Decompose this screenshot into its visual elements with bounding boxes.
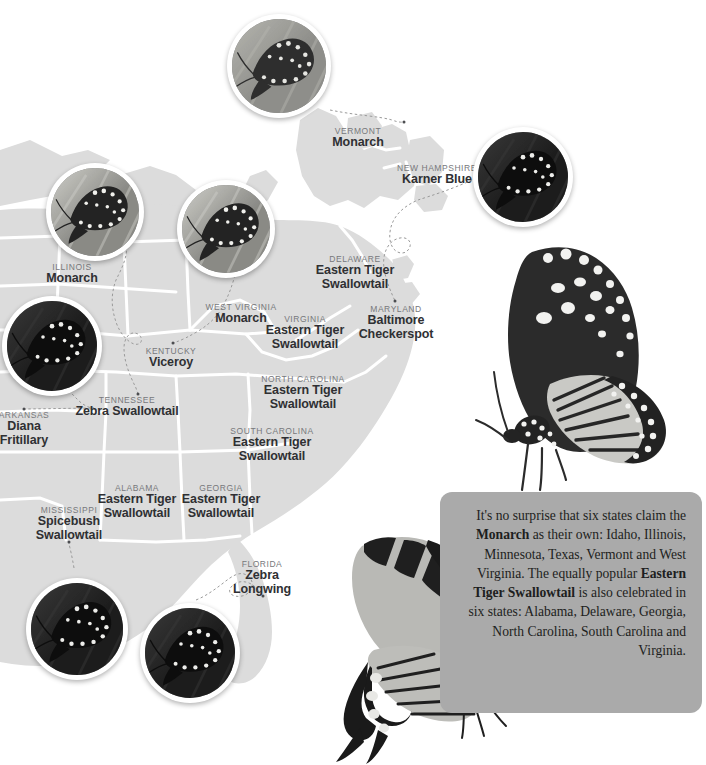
zebra-longwing-butterfly-photo <box>140 603 240 703</box>
butterfly-name-vermont: Monarch <box>332 136 383 150</box>
state-label-mississippi: MISSISSIPPISpicebushSwallowtail <box>36 506 102 542</box>
karner-blue-butterfly-photo <box>227 14 331 118</box>
butterfly-name-north-carolina: Eastern TigerSwallowtail <box>261 384 345 411</box>
spicebush-swallowtail-butterfly-photo <box>26 578 128 680</box>
butterfly-name-new-hampshire: Karner Blue <box>397 173 477 187</box>
butterfly-name-florida: ZebraLongwing <box>233 569 291 596</box>
state-label-virginia: VIRGINIAEastern TigerSwallowtail <box>266 315 344 351</box>
baltimore-checkerspot-butterfly-photo-image <box>478 132 568 222</box>
butterfly-name-kentucky: Viceroy <box>146 356 197 370</box>
butterfly-name-south-carolina: Eastern TigerSwallowtail <box>230 436 313 463</box>
marker-dot-vermont <box>403 121 406 124</box>
state-label-arkansas: ARKANSASDianaFritillary <box>0 411 49 447</box>
butterfly-name-tennessee: Zebra Swallowtail <box>75 405 178 419</box>
monarch-butterfly-shape <box>462 244 698 506</box>
infographic-root: VERMONTMonarchNEW HAMPSHIREKarner BlueIL… <box>0 0 706 765</box>
state-label-new-hampshire: NEW HAMPSHIREKarner Blue <box>397 164 477 187</box>
diana-fritillary-butterfly-photo <box>2 296 102 396</box>
state-label-alabama: ALABAMAEastern TigerSwallowtail <box>98 484 176 520</box>
caption-emphasis: Eastern Tiger Swallowtail <box>473 566 686 600</box>
state-label-vermont: VERMONTMonarch <box>332 127 383 150</box>
state-label-south-carolina: SOUTH CAROLINAEastern TigerSwallowtail <box>230 427 313 463</box>
caption-box: It's no surprise that six states claim t… <box>440 492 702 713</box>
butterfly-name-illinois: Monarch <box>46 272 97 286</box>
zebra-longwing-butterfly-photo-image <box>145 608 235 698</box>
spicebush-swallowtail-butterfly-photo-image <box>31 583 123 675</box>
diana-fritillary-butterfly-photo-image <box>7 301 97 391</box>
butterfly-name-maryland: BaltimoreCheckerspot <box>359 314 434 341</box>
state-label-tennessee: TENNESSEEZebra Swallowtail <box>75 396 178 419</box>
butterfly-name-virginia: Eastern TigerSwallowtail <box>266 324 344 351</box>
state-label-georgia: GEORGIAEastern TigerSwallowtail <box>182 484 260 520</box>
state-label-delaware: DELAWAREEastern TigerSwallowtail <box>316 255 394 291</box>
monarch-butterfly-illustration <box>462 244 698 506</box>
butterfly-name-delaware: Eastern TigerSwallowtail <box>316 264 394 291</box>
state-label-florida: FLORIDAZebraLongwing <box>233 560 291 596</box>
butterfly-name-georgia: Eastern TigerSwallowtail <box>182 493 260 520</box>
zebra-swallowtail-butterfly-photo <box>46 163 144 261</box>
butterfly-name-alabama: Eastern TigerSwallowtail <box>98 493 176 520</box>
state-label-maryland: MARYLANDBaltimoreCheckerspot <box>359 305 434 341</box>
state-label-north-carolina: NORTH CAROLINAEastern TigerSwallowtail <box>261 375 345 411</box>
state-label-illinois: ILLINOISMonarch <box>46 263 97 286</box>
viceroy-butterfly-photo-image <box>182 185 270 273</box>
zebra-swallowtail-butterfly-photo-image <box>51 168 139 256</box>
caption-emphasis: Monarch <box>476 527 529 542</box>
butterfly-name-mississippi: SpicebushSwallowtail <box>36 515 102 542</box>
caption-text: It's no surprise that six states claim t… <box>456 506 686 660</box>
viceroy-butterfly-photo <box>177 180 275 278</box>
karner-blue-butterfly-photo-image <box>232 19 326 113</box>
butterfly-name-arkansas: DianaFritillary <box>0 420 49 447</box>
marker-dot-maryland <box>394 300 397 303</box>
baltimore-checkerspot-butterfly-photo <box>473 127 573 227</box>
state-label-kentucky: KENTUCKYViceroy <box>146 347 197 370</box>
marker-dot-kentucky <box>172 342 175 345</box>
